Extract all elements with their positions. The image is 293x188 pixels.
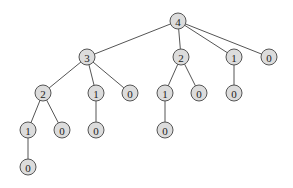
tree-node: 0 [191,85,207,101]
node-label: 1 [93,88,99,100]
tree-node: 0 [226,85,242,101]
tree-node: 0 [54,122,70,138]
tree-node: 1 [88,85,104,101]
node-label: 3 [84,52,90,64]
node-label: 0 [231,88,237,100]
node-label: 0 [266,52,272,64]
tree-node: 4 [170,13,186,29]
node-label: 2 [40,88,46,100]
tree-node: 1 [20,122,36,138]
tree-node: 1 [226,49,242,65]
node-label: 0 [162,125,168,137]
tree-node: 0 [122,85,138,101]
tree-node: 0 [88,122,104,138]
node-label: 0 [196,88,202,100]
tree-node: 3 [79,49,95,65]
tree-node: 2 [35,85,51,101]
node-label: 0 [127,88,133,100]
tree-node: 0 [20,159,36,175]
tree-node: 0 [261,49,277,65]
tree-node: 2 [173,49,189,65]
node-label: 0 [25,162,31,174]
node-label: 0 [93,125,99,137]
tree-node: 1 [157,85,173,101]
node-label: 1 [231,52,237,64]
node-label: 0 [59,125,65,137]
node-label: 4 [175,16,181,28]
tree-node: 0 [157,122,173,138]
tree-edge [43,57,87,93]
tree-diagram: 4321021010010000 [0,0,293,188]
tree-edge [87,21,178,57]
tree-nodes: 4321021010010000 [20,13,277,175]
tree-edge [178,21,269,57]
node-label: 1 [162,88,168,100]
node-label: 1 [25,125,31,137]
node-label: 2 [178,52,184,64]
